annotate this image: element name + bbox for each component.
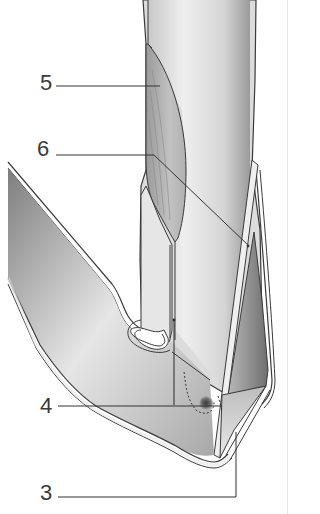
right-edge-rule [287, 0, 288, 514]
ball-node [199, 396, 213, 410]
label-6: 6 [37, 138, 49, 160]
label-3: 3 [40, 482, 52, 504]
label-4: 4 [40, 395, 52, 417]
floor-region [220, 386, 270, 460]
label-5: 5 [40, 72, 52, 94]
